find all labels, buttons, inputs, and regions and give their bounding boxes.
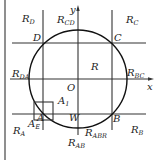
label-A1: A1: [57, 95, 69, 108]
label-RABR: RABR: [84, 127, 107, 140]
region-diagram: RD RCD RC y D C R RDA RBC O x A1 A W B A…: [0, 0, 159, 165]
label-point-C: C: [114, 32, 122, 43]
label-point-D: D: [32, 32, 41, 43]
label-RCD: RCD: [56, 14, 76, 27]
label-point-B: B: [112, 113, 120, 124]
label-point-A: A: [36, 112, 44, 123]
label-W: W: [69, 112, 80, 123]
label-RAB: RAB: [67, 137, 85, 150]
label-y-axis: y: [69, 4, 76, 15]
label-RBC: RBC: [126, 67, 144, 80]
label-RC: RC: [125, 14, 139, 27]
label-RB: RB: [130, 124, 144, 137]
y-axis-arrow-icon: [76, 5, 79, 11]
label-RD: RD: [21, 13, 36, 26]
label-origin: O: [67, 82, 75, 93]
label-R: R: [90, 61, 99, 72]
label-x-axis: x: [147, 81, 153, 92]
label-RA: RA: [12, 125, 26, 138]
